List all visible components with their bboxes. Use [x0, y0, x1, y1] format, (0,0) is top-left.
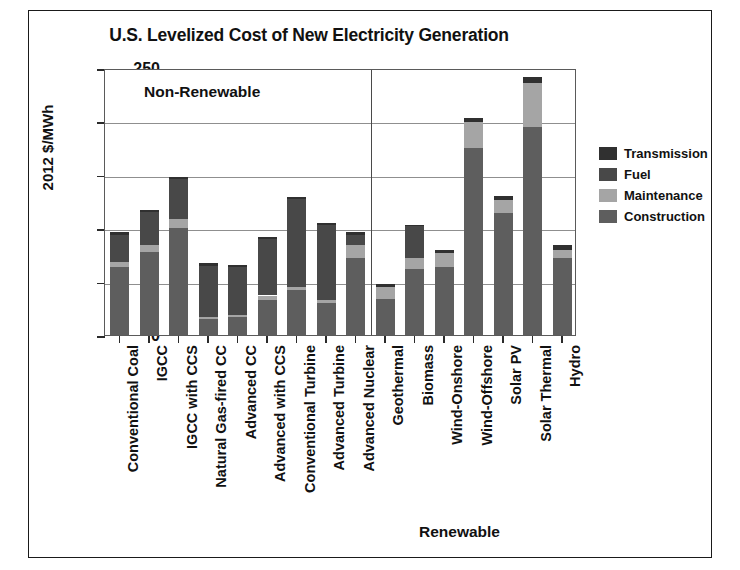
bar-column[interactable]: [140, 68, 159, 335]
x-tick-mark: [207, 336, 208, 343]
legend-item[interactable]: Transmission: [599, 143, 719, 164]
bar-segment-maintenance: [376, 287, 395, 299]
bar-segment-transmission: [110, 232, 129, 234]
x-tick-label: IGCC with CCS: [184, 345, 200, 449]
x-tick-mark: [237, 336, 238, 343]
bar-segment-maintenance: [258, 296, 277, 300]
bar-segment-transmission: [169, 177, 188, 179]
x-tick-label: Solar PV: [508, 345, 524, 405]
x-tick-mark: [355, 336, 356, 343]
x-tick-label: Conventional Turbine: [302, 345, 318, 493]
bar-column[interactable]: [110, 68, 129, 335]
bar-column[interactable]: [346, 68, 365, 335]
bar-column[interactable]: [553, 68, 572, 335]
x-tick-mark: [384, 336, 385, 343]
x-tick-label: Solar Thermal: [538, 345, 554, 442]
bar-segment-construction: [464, 148, 483, 335]
bar-segment-transmission: [346, 232, 365, 234]
bar-column[interactable]: [464, 68, 483, 335]
bar-column[interactable]: [258, 68, 277, 335]
bar-column[interactable]: [405, 68, 424, 335]
bar-column[interactable]: [435, 68, 454, 335]
legend-label: Transmission: [624, 146, 708, 161]
bar-segment-maintenance: [346, 245, 365, 258]
bar-segment-fuel: [346, 235, 365, 246]
bar-segment-transmission: [553, 245, 572, 249]
x-tick-label: Advanced with CCS: [272, 345, 288, 482]
x-tick-label: Wind-Onshore: [449, 345, 465, 445]
legend-label: Maintenance: [624, 188, 703, 203]
x-tick-mark: [473, 336, 474, 343]
bar-segment-construction: [553, 258, 572, 335]
bar-column[interactable]: [199, 68, 218, 335]
x-tick-mark: [148, 336, 149, 343]
bar-segment-fuel: [199, 266, 218, 317]
bar-column[interactable]: [494, 68, 513, 335]
x-tick-mark: [296, 336, 297, 343]
bar-segment-construction: [494, 213, 513, 335]
bar-segment-transmission: [494, 196, 513, 200]
bar-segment-fuel: [110, 235, 129, 263]
legend-item[interactable]: Fuel: [599, 164, 719, 185]
bar-segment-fuel: [140, 212, 159, 245]
legend-item[interactable]: Construction: [599, 206, 719, 227]
bar-segment-transmission: [140, 210, 159, 212]
bar-segment-construction: [287, 290, 306, 335]
bar-segment-transmission: [464, 118, 483, 122]
figure-frame: U.S. Levelized Cost of New Electricity G…: [28, 10, 712, 558]
bar-segment-construction: [317, 303, 336, 335]
legend-swatch-icon: [599, 147, 617, 160]
bar-column[interactable]: [523, 68, 542, 335]
bar-column[interactable]: [228, 68, 247, 335]
x-tick-label: Wind-Offshore: [479, 345, 495, 446]
x-tick-mark: [414, 336, 415, 343]
bar-column[interactable]: [317, 68, 336, 335]
bar-column[interactable]: [287, 68, 306, 335]
bar-segment-construction: [169, 228, 188, 335]
legend-label: Fuel: [624, 167, 651, 182]
bar-segment-construction: [140, 252, 159, 335]
x-tick-mark: [178, 336, 179, 343]
x-tick-label: Natural Gas-fired CC: [213, 345, 229, 488]
x-tick-label: Geothermal: [390, 345, 406, 426]
x-tick-mark: [119, 336, 120, 343]
bar-column[interactable]: [169, 68, 188, 335]
bar-segment-construction: [258, 300, 277, 335]
annotation-renewable: Renewable: [419, 523, 500, 541]
bar-segment-maintenance: [140, 245, 159, 251]
annotation-non-renewable: Non-Renewable: [144, 83, 260, 101]
bar-segment-maintenance: [228, 315, 247, 317]
chart-title: U.S. Levelized Cost of New Electricity G…: [29, 25, 589, 46]
bar-segment-maintenance: [317, 300, 336, 303]
bar-segment-maintenance: [110, 262, 129, 266]
legend-swatch-icon: [599, 210, 617, 223]
bar-segment-transmission: [435, 250, 454, 253]
legend-item[interactable]: Maintenance: [599, 185, 719, 206]
bar-segment-maintenance: [199, 317, 218, 319]
x-tick-label: Biomass: [420, 345, 436, 405]
bar-segment-transmission: [287, 197, 306, 199]
bar-column[interactable]: [376, 68, 395, 335]
legend-swatch-icon: [599, 189, 617, 202]
bar-segment-construction: [435, 267, 454, 335]
bar-segment-fuel: [169, 179, 188, 219]
group-divider: [371, 70, 372, 335]
legend-swatch-icon: [599, 168, 617, 181]
bar-segment-construction: [228, 317, 247, 335]
bar-segment-fuel: [317, 225, 336, 300]
chart-legend: TransmissionFuelMaintenanceConstruction: [599, 143, 719, 227]
x-tick-label: Advanced CC: [243, 345, 259, 439]
bar-segment-maintenance: [287, 287, 306, 290]
bar-segment-fuel: [258, 239, 277, 296]
x-tick-label: IGCC: [154, 345, 170, 381]
bar-segment-maintenance: [435, 253, 454, 267]
bar-segment-construction: [110, 267, 129, 335]
bar-segment-fuel: [287, 199, 306, 287]
x-tick-mark: [325, 336, 326, 343]
x-tick-mark: [266, 336, 267, 343]
bar-segment-maintenance: [523, 83, 542, 127]
x-tick-mark: [502, 336, 503, 343]
bar-segment-fuel: [405, 226, 424, 258]
x-tick-mark: [561, 336, 562, 343]
legend-label: Construction: [624, 209, 705, 224]
